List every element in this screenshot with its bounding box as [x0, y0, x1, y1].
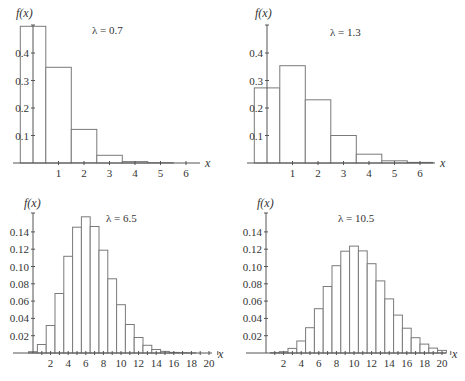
histogram-bar [71, 129, 97, 163]
y-tick-label: 0.12 [10, 243, 29, 255]
x-tick-label: 20 [437, 357, 449, 369]
chart-panel-lambda-6-5: 24681012141618200.020.040.060.080.100.12… [10, 196, 224, 369]
x-tick-label: 5 [158, 167, 164, 179]
y-tick-label: 0.4 [249, 47, 263, 59]
x-tick-label: 2 [281, 357, 287, 369]
x-axis-title: x [439, 156, 446, 170]
x-tick-label: 18 [419, 357, 431, 369]
x-tick-label: 8 [101, 357, 107, 369]
y-axis-title: f(x) [24, 196, 41, 210]
chart-panel-lambda-0-7: 1234560.10.20.30.4 f(x) λ = 0.7 x [13, 6, 211, 179]
y-tick-label: 0.08 [243, 278, 263, 290]
x-tick-label: 6 [316, 357, 322, 369]
x-tick-label: 3 [107, 167, 113, 179]
lambda-label: λ = 10.5 [338, 212, 375, 224]
x-tick-label: 1 [56, 167, 62, 179]
x-tick-label: 14 [151, 357, 163, 369]
histogram-bar [411, 338, 420, 353]
histogram-bars [29, 217, 196, 353]
x-tick-label: 6 [417, 167, 423, 179]
histogram-bars [254, 66, 432, 163]
x-tick-label: 14 [384, 357, 396, 369]
histogram-bar [81, 217, 90, 353]
histogram-bar [332, 266, 341, 353]
x-tick-label: 3 [341, 167, 347, 179]
x-tick-label: 5 [392, 167, 398, 179]
x-tick-label: 8 [334, 357, 340, 369]
histogram-bar [331, 136, 357, 164]
y-tick-label: 0.2 [15, 102, 29, 114]
x-tick-label: 10 [349, 357, 361, 369]
lambda-label: λ = 0.7 [92, 24, 123, 36]
histogram-bar [350, 246, 359, 353]
histogram-bar [376, 281, 385, 353]
histogram-bar [64, 256, 73, 353]
histogram-bar [314, 309, 323, 353]
x-tick-label: 16 [401, 357, 413, 369]
x-tick-label: 2 [48, 357, 54, 369]
histogram-bar [306, 328, 315, 353]
y-tick-label: 0.3 [249, 75, 263, 87]
y-tick-label: 0.1 [249, 130, 263, 142]
histogram-bar [90, 227, 99, 354]
x-tick-label: 18 [186, 357, 198, 369]
histogram-bar [385, 299, 394, 353]
x-axis-title: x [451, 347, 458, 361]
x-tick-label: 2 [81, 167, 87, 179]
y-tick-label: 0.14 [243, 226, 263, 238]
x-tick-label: 12 [366, 357, 377, 369]
histogram-bar [341, 251, 350, 353]
histogram-bar [134, 338, 143, 354]
y-tick-label: 0.2 [249, 102, 263, 114]
y-tick-label: 0.3 [15, 75, 29, 87]
histogram-bar [117, 305, 126, 353]
y-axis-title: f(x) [16, 6, 33, 20]
x-tick-label: 4 [132, 167, 138, 179]
y-axis-title: f(x) [255, 6, 272, 20]
histogram-bar [394, 315, 403, 353]
x-tick-label: 20 [204, 357, 216, 369]
histogram-bar [99, 250, 108, 353]
x-axis-title: x [217, 347, 224, 361]
x-tick-label: 12 [133, 357, 144, 369]
y-tick-label: 0.10 [10, 261, 30, 273]
histogram-bar [280, 66, 306, 163]
y-axis-title: f(x) [257, 196, 274, 210]
y-tick-label: 0.10 [243, 261, 263, 273]
x-tick-label: 1 [290, 167, 296, 179]
histogram-bars [270, 246, 446, 353]
x-tick-label: 16 [168, 357, 180, 369]
y-tick-label: 0.1 [15, 130, 29, 142]
y-tick-label: 0.4 [15, 47, 29, 59]
y-tick-label: 0.04 [10, 312, 30, 324]
y-tick-label: 0.14 [10, 226, 30, 238]
poisson-figure: 1234560.10.20.30.4 f(x) λ = 0.7 x 123456… [0, 0, 465, 381]
y-tick-label: 0.06 [243, 295, 263, 307]
histogram-bars [20, 26, 173, 163]
x-tick-label: 4 [65, 357, 71, 369]
histogram-bar [323, 287, 332, 354]
histogram-bar [55, 294, 64, 354]
y-tick-label: 0.12 [243, 243, 262, 255]
x-tick-label: 2 [315, 167, 321, 179]
lambda-label: λ = 1.3 [330, 26, 361, 38]
x-axis-title: x [204, 156, 211, 170]
x-tick-label: 4 [298, 357, 304, 369]
lambda-label: λ = 6.5 [106, 212, 137, 224]
histogram-bar [402, 328, 411, 353]
histogram-bar [46, 67, 72, 163]
histogram-bar [73, 227, 82, 353]
chart-panel-lambda-1-3: 1234560.10.20.30.4 f(x) λ = 1.3 x [247, 6, 446, 179]
y-tick-label: 0.02 [10, 330, 29, 342]
x-tick-label: 10 [116, 357, 128, 369]
x-tick-label: 6 [183, 167, 189, 179]
y-tick-label: 0.08 [10, 278, 30, 290]
chart-panel-lambda-10-5: 24681012141618200.020.040.060.080.100.12… [243, 196, 458, 369]
y-tick-label: 0.02 [243, 330, 262, 342]
histogram-bar [125, 325, 134, 354]
x-tick-label: 4 [366, 167, 372, 179]
histogram-bar [46, 326, 55, 354]
y-tick-label: 0.06 [10, 295, 30, 307]
histogram-bar [305, 100, 331, 163]
histogram-bar [367, 264, 376, 353]
